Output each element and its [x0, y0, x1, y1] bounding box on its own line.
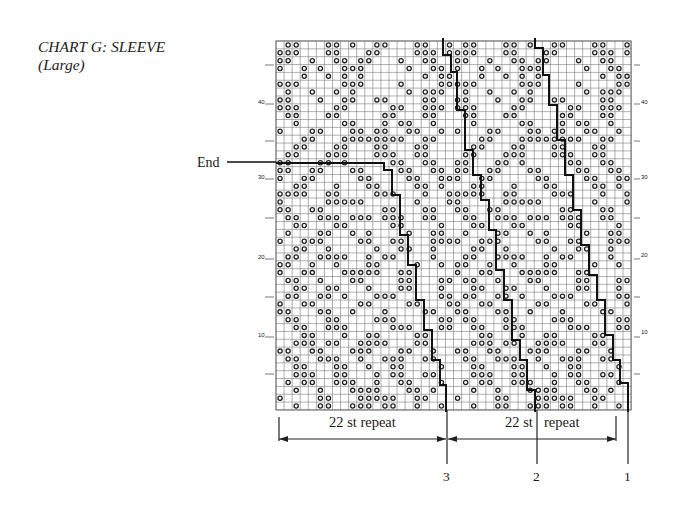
knit-symbol-icon — [334, 325, 338, 329]
knit-symbol-icon — [342, 59, 346, 63]
knit-symbol-icon — [391, 216, 395, 220]
knit-symbol-icon — [617, 66, 621, 70]
knit-symbol-icon — [512, 106, 516, 110]
knit-symbol-icon — [415, 396, 419, 400]
knit-symbol-icon — [504, 192, 508, 196]
knit-symbol-icon — [318, 310, 322, 314]
knit-symbol-icon — [617, 176, 621, 180]
knit-symbol-icon — [601, 208, 605, 212]
knit-symbol-icon — [512, 51, 516, 55]
knit-symbol-icon — [407, 176, 411, 180]
knit-symbol-icon — [464, 90, 468, 94]
knit-symbol-icon — [310, 349, 314, 353]
knit-symbol-icon — [464, 318, 468, 322]
knit-symbol-icon — [496, 396, 500, 400]
knit-symbol-icon — [464, 168, 468, 172]
knit-symbol-icon — [318, 168, 322, 172]
knit-symbol-icon — [310, 373, 314, 377]
knit-symbol-icon — [367, 51, 371, 55]
knit-symbol-icon — [326, 247, 330, 251]
arrow-head-icon — [448, 436, 457, 442]
knit-symbol-icon — [383, 310, 387, 314]
knit-symbol-icon — [399, 168, 403, 172]
knit-symbol-icon — [326, 200, 330, 204]
knit-symbol-icon — [625, 176, 629, 180]
knit-symbol-icon — [609, 388, 613, 392]
knit-symbol-icon — [334, 192, 338, 196]
knit-symbol-icon — [278, 168, 282, 172]
knit-symbol-icon — [472, 388, 476, 392]
knit-symbol-icon — [472, 286, 476, 290]
row-number-40-left: 40 — [258, 99, 265, 105]
knit-symbol-icon — [560, 318, 564, 322]
size-marker-2: 2 — [533, 469, 540, 485]
knit-symbol-icon — [536, 137, 540, 141]
knit-symbol-icon — [342, 373, 346, 377]
knit-symbol-icon — [326, 255, 330, 259]
knit-symbol-icon — [383, 192, 387, 196]
knit-symbol-icon — [488, 263, 492, 267]
knit-symbol-icon — [351, 200, 355, 204]
knit-symbol-icon — [431, 59, 435, 63]
knit-symbol-icon — [552, 373, 556, 377]
knit-symbol-icon — [359, 239, 363, 243]
knit-symbol-icon — [593, 145, 597, 149]
knit-symbol-icon — [294, 404, 298, 408]
knit-symbol-icon — [423, 357, 427, 361]
knit-symbol-icon — [294, 192, 298, 196]
knit-symbol-icon — [577, 137, 581, 141]
knit-symbol-icon — [302, 145, 306, 149]
knit-symbol-icon — [399, 106, 403, 110]
knit-symbol-icon — [375, 263, 379, 267]
knit-symbol-icon — [601, 113, 605, 117]
knit-symbol-icon — [286, 168, 290, 172]
knit-symbol-icon — [286, 357, 290, 361]
knit-symbol-icon — [423, 333, 427, 337]
knit-symbol-icon — [310, 270, 314, 274]
knit-symbol-icon — [609, 113, 613, 117]
knit-symbol-icon — [334, 200, 338, 204]
knit-symbol-icon — [617, 231, 621, 235]
knit-symbol-icon — [488, 90, 492, 94]
knit-symbol-icon — [609, 90, 613, 94]
knit-symbol-icon — [585, 380, 589, 384]
knit-symbol-icon — [488, 176, 492, 180]
knit-symbol-icon — [399, 82, 403, 86]
knit-symbol-icon — [601, 184, 605, 188]
knit-symbol-icon — [286, 294, 290, 298]
knit-symbol-icon — [536, 302, 540, 306]
knit-symbol-icon — [447, 325, 451, 329]
knit-symbol-icon — [512, 43, 516, 47]
knit-symbol-icon — [617, 286, 621, 290]
knit-symbol-icon — [399, 161, 403, 165]
knit-symbol-icon — [568, 223, 572, 227]
knit-symbol-icon — [488, 137, 492, 141]
knit-symbol-icon — [359, 216, 363, 220]
knit-symbol-icon — [536, 349, 540, 353]
knit-symbol-icon — [431, 255, 435, 259]
knit-symbol-icon — [601, 74, 605, 78]
knit-symbol-icon — [334, 263, 338, 267]
knit-symbol-icon — [568, 153, 572, 157]
knit-symbol-icon — [472, 82, 476, 86]
knit-symbol-icon — [617, 168, 621, 172]
knit-symbol-icon — [536, 176, 540, 180]
knit-symbol-icon — [359, 137, 363, 141]
knit-symbol-icon — [310, 168, 314, 172]
knit-symbol-icon — [342, 255, 346, 259]
knit-symbol-icon — [512, 192, 516, 196]
knit-symbol-icon — [601, 192, 605, 196]
size-marker-1: 1 — [624, 469, 631, 485]
knit-symbol-icon — [593, 333, 597, 337]
knit-symbol-icon — [367, 404, 371, 408]
knit-symbol-icon — [351, 168, 355, 172]
knit-symbol-icon — [617, 106, 621, 110]
knit-symbol-icon — [601, 373, 605, 377]
knit-symbol-icon — [577, 106, 581, 110]
knit-symbol-icon — [447, 318, 451, 322]
knit-symbol-icon — [585, 66, 589, 70]
knit-symbol-icon — [359, 59, 363, 63]
knit-symbol-icon — [310, 129, 314, 133]
knit-symbol-icon — [480, 270, 484, 274]
knit-symbol-icon — [568, 294, 572, 298]
